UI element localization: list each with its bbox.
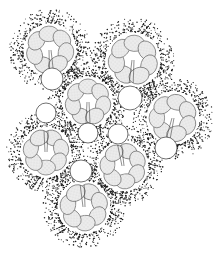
lumen bbox=[125, 52, 141, 68]
vesicle bbox=[36, 103, 56, 123]
acini-illustration bbox=[0, 0, 213, 254]
vesicle bbox=[78, 123, 98, 143]
lumen bbox=[39, 145, 54, 160]
vesicle bbox=[155, 137, 177, 159]
lumen bbox=[81, 95, 96, 110]
rosette-center bbox=[63, 77, 113, 127]
vesicle bbox=[108, 124, 128, 144]
rosette-center-bottom bbox=[98, 141, 148, 191]
rosette-bottom bbox=[58, 181, 110, 233]
vesicle bbox=[41, 68, 63, 90]
vesicle bbox=[70, 160, 92, 182]
rosette-right bbox=[147, 92, 199, 144]
rosette-top-right bbox=[106, 33, 160, 87]
lumen bbox=[116, 159, 131, 174]
lumen bbox=[42, 42, 58, 58]
vesicle bbox=[118, 86, 142, 110]
lumen bbox=[76, 199, 92, 215]
rosettes bbox=[21, 24, 199, 233]
rosette-left-middle bbox=[21, 127, 71, 177]
